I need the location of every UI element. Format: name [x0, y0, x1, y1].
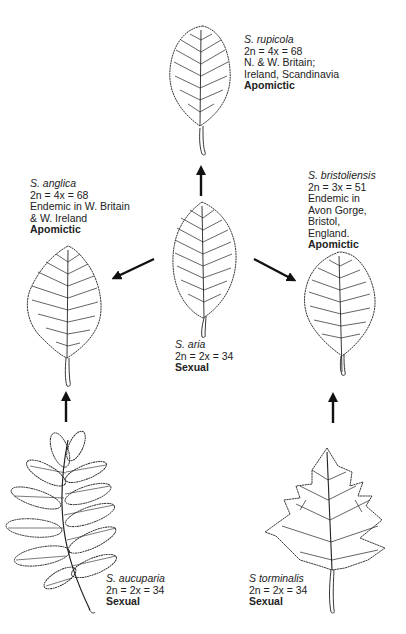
label-aria: S. aria 2n = 2x = 34 Sexual [175, 339, 233, 374]
leaf-anglica-icon [27, 246, 101, 386]
distribution-line: Endemic in [308, 193, 376, 205]
distribution-line: N. & W. Britain; [244, 57, 339, 69]
distribution-line: Bristol, [308, 216, 376, 228]
label-anglica: S. anglica 2n = 4x = 68 Endemic in W. Br… [30, 178, 130, 236]
arrow-aria-to-bristoliensis [254, 259, 292, 279]
distribution-line: Endemic in W. Britain [30, 201, 130, 213]
species-name: S. rupicola [244, 34, 339, 46]
species-name: S. bristoliensis [308, 170, 376, 182]
species-name: S. aria [175, 339, 233, 351]
species-name: S torminalis [249, 573, 307, 585]
diagram-artwork [0, 0, 406, 634]
label-bristoliensis: S. bristoliensis 2n = 3x = 51 Endemic in… [308, 170, 376, 251]
label-torminalis: S torminalis 2n = 2x = 34 Sexual [249, 573, 307, 608]
reproduction-mode: Apomictic [30, 224, 130, 236]
reproduction-mode: Sexual [175, 362, 233, 374]
leaf-aucuparia-icon [5, 429, 119, 613]
reproduction-mode: Apomictic [308, 239, 376, 251]
label-aucuparia: S. aucuparia 2n = 2x = 34 Sexual [106, 573, 165, 608]
leaf-rupicola-icon [170, 26, 230, 155]
arrow-aria-to-anglica [116, 259, 154, 277]
species-name: S. anglica [30, 178, 130, 190]
label-rupicola: S. rupicola 2n = 4x = 68 N. & W. Britain… [244, 34, 339, 92]
leaf-aria-icon [173, 202, 236, 337]
reproduction-mode: Sexual [106, 596, 165, 608]
leaf-bristoliensis-icon [305, 252, 376, 375]
reproduction-mode: Apomictic [244, 80, 339, 92]
species-name: S. aucuparia [106, 573, 165, 585]
reproduction-mode: Sexual [249, 596, 307, 608]
